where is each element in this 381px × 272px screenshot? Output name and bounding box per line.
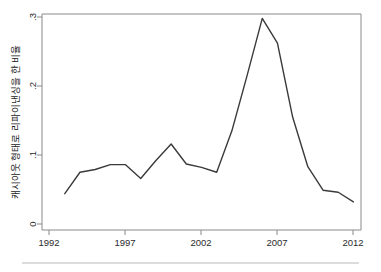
x-axis-ticks — [49, 230, 353, 235]
data-series-line — [65, 18, 354, 202]
x-tick-label-2007: 2007 — [266, 237, 287, 248]
x-tick-label-2012: 2012 — [342, 237, 363, 248]
y-tick-label-2: .2 — [27, 82, 38, 90]
y-tick-label-0: 0 — [27, 221, 38, 226]
x-axis-tick-labels: 1992 1997 2002 2007 2012 — [38, 237, 363, 248]
plot-frame — [42, 14, 361, 230]
plot-border — [42, 14, 361, 230]
y-tick-label-1: .1 — [27, 151, 38, 159]
x-tick-label-2002: 2002 — [190, 237, 211, 248]
x-tick-label-1997: 1997 — [114, 237, 135, 248]
y-tick-label-3: .3 — [27, 13, 38, 21]
line-chart: .3 .2 .1 0 캐시아웃 형태로 리파이낸싱을 한 비율 1992 199… — [0, 0, 381, 272]
y-axis-ticks — [37, 17, 42, 224]
chart-figure: .3 .2 .1 0 캐시아웃 형태로 리파이낸싱을 한 비율 1992 199… — [0, 0, 381, 272]
y-axis-tick-labels: .3 .2 .1 0 — [27, 13, 38, 227]
y-axis-title: 캐시아웃 형태로 리파이낸싱을 한 비율 — [10, 45, 21, 200]
x-tick-label-1992: 1992 — [38, 237, 59, 248]
